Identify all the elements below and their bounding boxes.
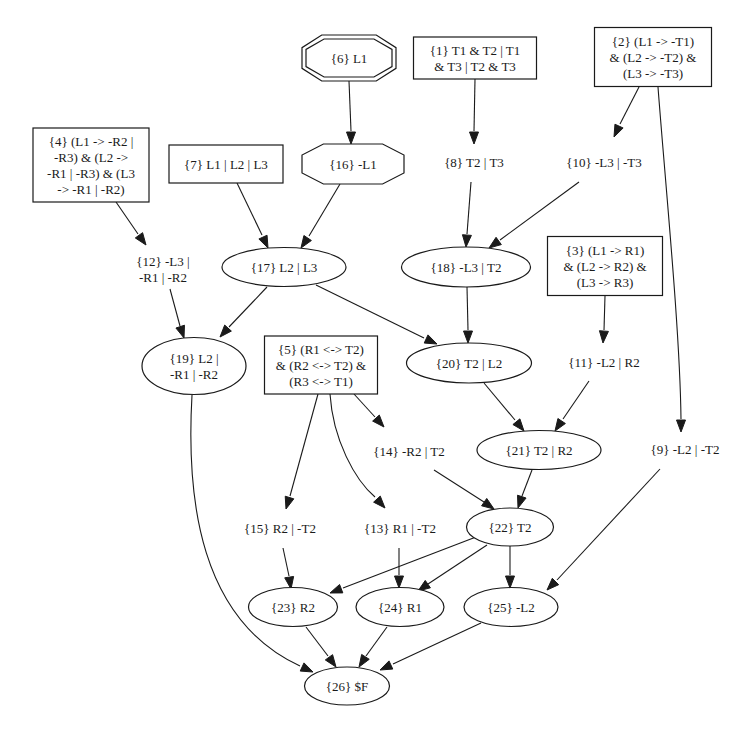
arrowhead-icon bbox=[176, 325, 185, 338]
edge-line bbox=[116, 202, 138, 234]
edge-16-to-17 bbox=[301, 184, 340, 248]
edge-line bbox=[229, 287, 267, 327]
node-1[interactable]: {1} T1 & T2 | T1& T3 | T2 & T3 bbox=[414, 37, 537, 79]
edge-line bbox=[349, 81, 351, 131]
node-16[interactable]: {16} -L1 bbox=[302, 144, 404, 184]
node-label: -> -R1 | -R2) bbox=[57, 182, 124, 197]
edge-8-to-18 bbox=[462, 182, 471, 247]
node-label: & (R2 <-> T2) & bbox=[276, 358, 366, 373]
node-24[interactable]: {24} R1 bbox=[356, 588, 444, 627]
node-20[interactable]: {20} T2 | L2 bbox=[407, 343, 532, 383]
node-label: {16} -L1 bbox=[329, 157, 377, 172]
arrowhead-icon bbox=[325, 655, 336, 667]
arrowhead-icon bbox=[395, 576, 404, 588]
edge-17-to-19 bbox=[220, 287, 267, 337]
arrowhead-icon bbox=[506, 576, 515, 588]
edge-line bbox=[306, 627, 328, 656]
edge-line bbox=[170, 289, 180, 326]
edge-line bbox=[467, 182, 471, 234]
node-label: {18} -L3 | T2 bbox=[431, 260, 502, 275]
arrowhead-icon bbox=[300, 663, 313, 672]
edge-23-to-26 bbox=[306, 627, 336, 667]
node-label: -R3) & (L2 -> bbox=[54, 150, 128, 165]
arrowhead-icon bbox=[470, 132, 479, 144]
edge-line bbox=[557, 469, 660, 580]
node-label: {24} R1 bbox=[378, 600, 422, 615]
arrowhead-icon bbox=[482, 498, 494, 509]
node-label: -R1 | -R3) & (L3 bbox=[47, 166, 135, 181]
node-label: {13} R1 | -T2 bbox=[364, 521, 436, 536]
node-label: {12} -L3 | bbox=[136, 254, 189, 269]
node-label: & (L2 -> -T2) & bbox=[610, 50, 697, 65]
node-21[interactable]: {21} T2 | R2 bbox=[477, 431, 601, 470]
node-23[interactable]: {23} R2 bbox=[249, 588, 338, 627]
edge-line bbox=[620, 87, 639, 124]
node-12[interactable]: {12} -L3 |-R1 | -R2 bbox=[136, 254, 189, 285]
node-label: -R1 | -R2 bbox=[170, 367, 218, 382]
node-25[interactable]: {25} -L2 bbox=[464, 588, 558, 627]
node-18[interactable]: {18} -L3 | T2 bbox=[402, 247, 531, 287]
node-label: {11} -L2 | R2 bbox=[568, 355, 639, 370]
edge-line bbox=[366, 627, 387, 656]
graph-svg: {1} T1 & T2 | T1& T3 | T2 & T3{2} (L1 ->… bbox=[0, 0, 745, 734]
edge-15-to-23 bbox=[283, 548, 294, 589]
arrowhead-icon bbox=[301, 236, 311, 248]
node-label: {17} L2 | L3 bbox=[251, 260, 318, 275]
arrowhead-icon bbox=[285, 496, 294, 509]
arrowhead-icon bbox=[347, 132, 356, 144]
node-label: -R1 | -R2 bbox=[139, 270, 187, 285]
node-label: {1} T1 & T2 | T1 bbox=[430, 43, 521, 58]
arrowhead-icon bbox=[464, 331, 473, 343]
node-15[interactable]: {15} R2 | -T2 bbox=[244, 521, 316, 536]
edge-line bbox=[283, 548, 289, 576]
arrowhead-icon bbox=[518, 495, 527, 508]
edge-line bbox=[563, 381, 589, 419]
node-22[interactable]: {22} T2 bbox=[467, 508, 554, 546]
node-10[interactable]: {10} -L3 | -T3 bbox=[566, 155, 641, 170]
edge-11-to-21 bbox=[555, 381, 589, 431]
edge-line bbox=[316, 285, 424, 338]
node-7[interactable]: {7} L1 | L2 | L3 bbox=[169, 145, 283, 183]
node-19[interactable]: {19} L2 |-R1 | -R2 bbox=[142, 338, 246, 395]
node-2[interactable]: {2} (L1 -> -T1)& (L2 -> -T2) &(L3 -> -T3… bbox=[595, 28, 712, 87]
node-label: {9} -L2 | -T2 bbox=[651, 442, 720, 457]
edge-line bbox=[484, 383, 515, 420]
node-9[interactable]: {9} -L2 | -T2 bbox=[651, 442, 720, 457]
edge-17-to-20 bbox=[316, 285, 437, 344]
node-26[interactable]: {26} $F bbox=[305, 667, 390, 705]
edge-1-to-8 bbox=[470, 79, 479, 144]
arrowhead-icon bbox=[424, 335, 437, 344]
node-6[interactable]: {6} L1 bbox=[302, 35, 396, 81]
node-label: {2} (L1 -> -T1) bbox=[612, 34, 694, 49]
edge-14-to-22 bbox=[434, 470, 494, 509]
arrowhead-icon bbox=[599, 331, 608, 343]
edge-line bbox=[500, 182, 579, 240]
edge-line bbox=[604, 296, 605, 330]
node-label: {20} T2 | L2 bbox=[436, 356, 502, 371]
node-label: {15} R2 | -T2 bbox=[244, 521, 316, 536]
node-17[interactable]: {17} L2 | L3 bbox=[222, 248, 346, 287]
arrowhead-icon bbox=[513, 419, 524, 431]
arrowhead-icon bbox=[614, 124, 623, 137]
edge-24-to-26 bbox=[359, 627, 387, 667]
node-label: {8} T2 | T3 bbox=[444, 155, 504, 170]
node-11[interactable]: {11} -L2 | R2 bbox=[568, 355, 639, 370]
node-3[interactable]: {3} (L1 -> R1)& (L2 -> R2) &(L3 -> R3) bbox=[548, 237, 663, 296]
node-label: {10} -L3 | -T3 bbox=[566, 155, 641, 170]
edge-4-to-12 bbox=[116, 202, 146, 245]
edge-line bbox=[290, 394, 318, 496]
node-14[interactable]: {14} -R2 | T2 bbox=[373, 444, 445, 459]
edge-line bbox=[309, 184, 340, 236]
arrowhead-icon bbox=[374, 496, 385, 508]
arrowhead-icon bbox=[135, 233, 146, 245]
node-13[interactable]: {13} R1 | -T2 bbox=[364, 521, 436, 536]
node-5[interactable]: {5} (R1 <-> T2)& (R2 <-> T2) &(R3 <-> T1… bbox=[265, 336, 378, 394]
edge-21-to-22 bbox=[518, 470, 532, 508]
edge-line bbox=[474, 79, 475, 131]
edge-5-to-14 bbox=[354, 394, 384, 427]
node-8[interactable]: {8} T2 | T3 bbox=[444, 155, 504, 170]
arrowhead-icon bbox=[555, 419, 565, 431]
arrowhead-icon bbox=[547, 578, 559, 590]
node-4[interactable]: {4} (L1 -> -R2 |-R3) & (L2 ->-R1 | -R3) … bbox=[33, 128, 149, 202]
edge-line bbox=[428, 545, 487, 584]
